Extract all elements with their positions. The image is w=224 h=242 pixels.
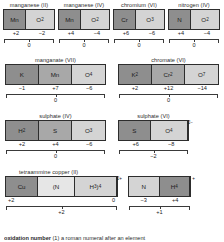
oxidation-value: −2 [29, 30, 55, 36]
formula-cell: O3 [72, 121, 105, 140]
formula-cell: O2 [191, 10, 219, 29]
species-manganese-iv: manganese (IV) Mn O2 +4 −4 0 [58, 2, 110, 49]
sum-value: 0 [3, 42, 55, 48]
formula-cell: S [119, 121, 151, 140]
species-caption: tetraammine copper (II) [5, 169, 118, 176]
oxidation-value: −4 [194, 30, 220, 36]
oxidation-value: +4 [160, 197, 192, 203]
oxidation-number-row: +4 −4 [168, 30, 220, 39]
formula-box: K2 Cr2 O7 [118, 64, 219, 85]
formula-box: Mn O2 [3, 9, 55, 30]
sum-row: 0 [113, 39, 165, 49]
sum-row: +2 [5, 206, 118, 216]
sum-value: 0 [5, 97, 106, 103]
formula-cell: Mn [4, 10, 26, 29]
species-nitrogen-iv: nitrogen (IV) N O2 +4 −4 0 [168, 2, 220, 49]
oxidation-number-row: +2 0 [5, 197, 118, 206]
oxidation-value: +4 [39, 141, 73, 147]
formula-box: H2 S O3 [5, 120, 106, 141]
sum-row: 0 [3, 39, 55, 49]
sum-row: 0 [168, 39, 220, 49]
oxidation-value: +4 [58, 30, 84, 36]
formula-box: N O2 [168, 9, 220, 30]
oxidation-value: +2 [5, 197, 62, 203]
ion-charge-label: 2+ [117, 176, 122, 181]
ion-charge-label: 2− [188, 120, 193, 125]
oxidation-number-row: +2 +12 −14 [118, 85, 219, 94]
formula-cell: O2 [81, 10, 109, 29]
formula-cell: (N [38, 177, 75, 196]
sum-row: 0 [58, 39, 110, 49]
oxidation-value: −8 [154, 141, 190, 147]
species-chromium-vi: chromium (VI) Cr O3 +6 −6 0 [113, 2, 165, 49]
oxidation-value: +6 [118, 141, 154, 147]
glossary-definition: (1) a roman numeral after an element [51, 235, 145, 241]
formula-box: S O4 2− [118, 120, 189, 141]
species-tetraammine-copper-ii: tetraammine copper (II) Cu (N H3)4 2+ +2… [5, 169, 118, 216]
sum-row: 0 [5, 150, 106, 160]
species-ammonium: N H4 + −3 +4 +1 [128, 176, 191, 216]
oxidation-number-row: +6 −8 [118, 141, 189, 150]
formula-cell: Cu [6, 177, 38, 196]
species-caption: manganate (VII) [5, 57, 106, 64]
oxidation-value: −6 [139, 30, 165, 36]
oxidation-value: +7 [39, 85, 73, 91]
oxidation-value: −14 [185, 85, 219, 91]
formula-cell: Mn [39, 65, 73, 84]
formula-cell: Cr2 [152, 65, 186, 84]
oxidation-number-row: +2 −2 [3, 30, 55, 39]
sum-value: 0 [5, 153, 106, 159]
oxidation-number-row: +6 −6 [113, 30, 165, 39]
sum-value: 0 [58, 42, 110, 48]
species-caption: chromate (VI) [118, 57, 219, 64]
sum-value: 0 [118, 97, 219, 103]
oxidation-number-row: −1 +7 −6 [5, 85, 106, 94]
oxidation-value: +2 [118, 85, 152, 91]
formula-box: Cu (N H3)4 2+ [5, 176, 118, 197]
formula-cell: S [39, 121, 73, 140]
formula-cell: O4 [72, 65, 105, 84]
formula-cell: K2 [119, 65, 152, 84]
oxidation-value: +6 [113, 30, 139, 36]
oxidation-value: −6 [72, 141, 106, 147]
oxidation-value: +2 [5, 141, 39, 147]
oxidation-value: +12 [152, 85, 186, 91]
species-chromate-vi: chromate (VI) K2 Cr2 O7 +2 +12 −14 0 [118, 57, 219, 104]
formula-cell: H3)4 [75, 177, 117, 196]
oxidation-number-row: +4 −4 [58, 30, 110, 39]
sum-value: +2 [5, 209, 118, 215]
formula-box: K Mn O4 [5, 64, 106, 85]
oxidation-number-figure: manganese (II) Mn O2 +2 −2 0 manganese (… [0, 0, 224, 242]
oxidation-value: +4 [168, 30, 194, 36]
formula-cell: H4 [160, 177, 191, 196]
glossary-term: oxidation number [4, 235, 51, 241]
formula-box: N H4 + [128, 176, 191, 197]
formula-cell: Mn [59, 10, 81, 29]
sum-value: +1 [128, 209, 191, 215]
formula-cell: O3 [136, 10, 164, 29]
oxidation-number-row: −3 +4 [128, 197, 191, 206]
species-caption: chromium (VI) [113, 2, 165, 9]
species-caption: nitrogen (IV) [168, 2, 220, 9]
oxidation-number-row: +2 +4 −6 [5, 141, 106, 150]
oxidation-value: −3 [128, 197, 160, 203]
species-manganate-vii: manganate (VII) K Mn O4 −1 +7 −6 0 [5, 57, 106, 104]
formula-box: Cr O3 [113, 9, 165, 30]
ion-charge-label: + [192, 176, 195, 181]
formula-cell: K [6, 65, 39, 84]
formula-cell: O7 [185, 65, 218, 84]
sum-value: 0 [113, 42, 165, 48]
formula-cell: H2 [6, 121, 39, 140]
formula-cell: O4 [151, 121, 188, 140]
oxidation-value: −6 [72, 85, 106, 91]
glossary-footer: oxidation number (1) a roman numeral aft… [4, 235, 222, 242]
species-sulphate-vi: sulphate (VI) S O4 2− +6 −8 −2 [118, 113, 189, 160]
oxidation-value: −1 [5, 85, 39, 91]
species-caption: manganese (II) [3, 2, 55, 9]
sum-row: +1 [128, 206, 191, 216]
species-caption: sulphate (IV) [5, 113, 106, 120]
oxidation-value: 0 [62, 197, 119, 203]
formula-cell: Cr [114, 10, 136, 29]
species-manganese-ii: manganese (II) Mn O2 +2 −2 0 [3, 2, 55, 49]
oxidation-value: +2 [3, 30, 29, 36]
